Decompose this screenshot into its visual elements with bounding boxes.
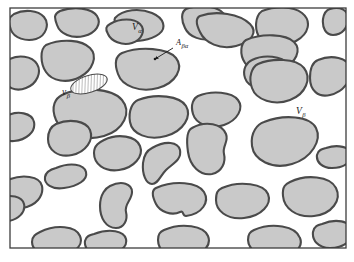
volume-alpha-label-subscript: α [138,27,142,34]
beta-blob-14 [250,60,307,102]
volume-beta-label-subscript: β [301,111,306,118]
interfacial-area-label-subscript: βα [181,42,189,49]
interface-pointer-dot [154,58,157,61]
beta-blob-01 [9,11,47,40]
beta-blob-06 [323,8,348,35]
figure-root: VαAβαvβVβ [0,0,354,262]
microstructure-diagram: VαAβαvβVβ [0,0,354,262]
beta-blob-08 [116,49,179,90]
averaging-volume-label-subscript: β [66,92,71,99]
beta-blob-22 [187,124,227,175]
beta-blob-29 [216,184,269,219]
beta-blob-30 [283,177,338,216]
beta-blob-02 [55,8,99,37]
